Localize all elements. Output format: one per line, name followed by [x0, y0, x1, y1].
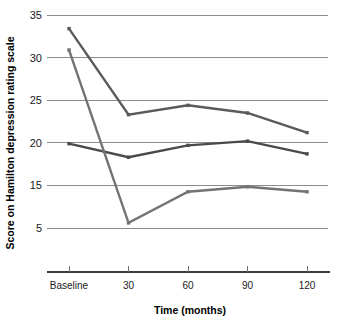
data-point-marker: [127, 113, 130, 116]
line-chart: 35302520155 Baseline306090120 Time (mont…: [0, 0, 343, 335]
data-point-marker: [67, 48, 70, 51]
data-point-marker: [186, 144, 189, 147]
data-point-marker: [305, 190, 308, 193]
data-point-marker: [305, 131, 308, 134]
y-axis-tick-label: 30: [30, 52, 42, 64]
x-axis-title: Time (months): [154, 304, 226, 316]
data-point-marker: [186, 190, 189, 193]
x-axis-tick-label: 30: [123, 280, 135, 291]
y-axis-tick-label: 20: [30, 137, 42, 149]
data-point-marker: [305, 152, 308, 155]
data-point-marker: [127, 156, 130, 159]
x-axis-tick-labels: Baseline306090120: [50, 280, 316, 291]
series-series-1-upper: [67, 27, 308, 134]
data-point-marker: [246, 139, 249, 142]
data-point-marker: [127, 221, 130, 224]
chart-figure: 35302520155 Baseline306090120 Time (mont…: [0, 0, 343, 335]
x-axis-tick-label: 120: [299, 280, 316, 291]
y-axis-tick-label: 5: [36, 222, 42, 234]
series-line: [69, 29, 307, 133]
data-point-marker: [246, 185, 249, 188]
data-series: [67, 27, 308, 225]
y-axis-tick-label: 25: [30, 94, 42, 106]
series-series-3-lower: [67, 48, 308, 224]
data-point-marker: [186, 104, 189, 107]
data-point-marker: [67, 142, 70, 145]
x-axis-tick-marks: [69, 266, 307, 272]
data-point-marker: [246, 111, 249, 114]
x-axis-tick-label: 90: [242, 280, 254, 291]
gridlines: [47, 15, 328, 228]
y-axis-title: Score on Hamilton depression rating scal…: [4, 36, 16, 249]
y-axis-tick-label: 35: [30, 9, 42, 21]
y-axis-tick-label: 15: [30, 179, 42, 191]
y-axis-tick-labels: 35302520155: [30, 9, 42, 234]
x-axis-tick-label: 60: [182, 280, 194, 291]
series-line: [69, 50, 307, 223]
x-axis-tick-label: Baseline: [50, 280, 89, 291]
data-point-marker: [67, 27, 70, 30]
